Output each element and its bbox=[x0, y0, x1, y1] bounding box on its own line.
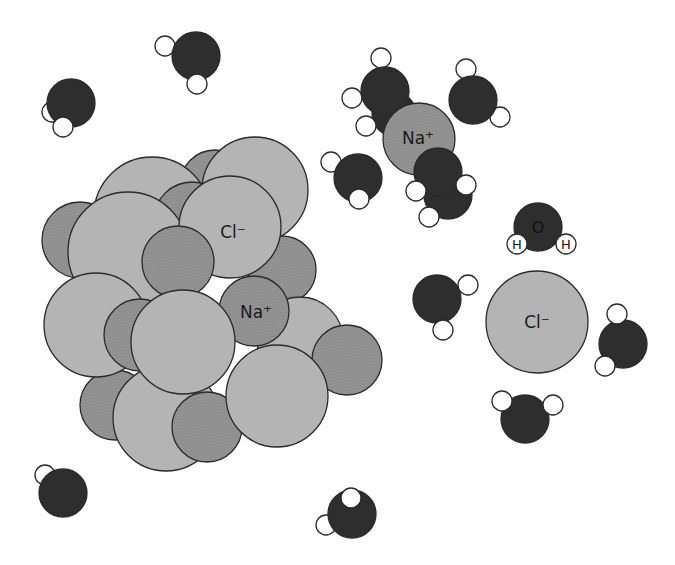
nacl-crystal bbox=[42, 137, 382, 471]
oxygen-atom bbox=[47, 79, 95, 127]
hydrogen-atom bbox=[456, 175, 476, 195]
crystal-sodium-label: Na⁺ bbox=[240, 302, 272, 322]
hydrogen-atom bbox=[342, 88, 362, 108]
hydrogen-atom bbox=[53, 117, 73, 137]
hydrogen-atom bbox=[406, 181, 426, 201]
water-hydrogen-left-label: H bbox=[512, 237, 522, 252]
solvated-chloride-label: Cl⁻ bbox=[524, 312, 550, 332]
hydrogen-atom bbox=[341, 488, 361, 508]
water-molecule bbox=[316, 488, 376, 538]
hydrogen-atom bbox=[543, 395, 563, 415]
oxygen-atom bbox=[413, 275, 461, 323]
chloride-ion bbox=[226, 345, 328, 447]
oxygen-atom bbox=[39, 469, 87, 517]
solvated-sodium-label: Na⁺ bbox=[402, 128, 434, 148]
water-oxygen-label: O bbox=[532, 218, 545, 237]
hydrogen-atom bbox=[419, 207, 439, 227]
chloride-ion bbox=[131, 290, 235, 394]
hydrogen-atom bbox=[356, 116, 376, 136]
oxygen-atom bbox=[449, 76, 497, 124]
hydrogen-atom bbox=[607, 304, 627, 324]
crystal-chloride-label: Cl⁻ bbox=[220, 222, 246, 242]
hydrogen-atom bbox=[492, 391, 512, 411]
sodium-ion bbox=[142, 226, 214, 298]
water-molecule bbox=[35, 465, 87, 517]
hydrogen-atom bbox=[371, 48, 391, 68]
water-molecule bbox=[155, 32, 220, 94]
water-molecule bbox=[42, 79, 95, 137]
oxygen-atom bbox=[172, 32, 220, 80]
hydrogen-atom bbox=[433, 320, 453, 340]
hydrogen-atom bbox=[595, 356, 615, 376]
hydrogen-atom bbox=[187, 74, 207, 94]
hydrogen-atom bbox=[458, 275, 478, 295]
hydrogen-atom bbox=[349, 189, 369, 209]
water-hydrogen-right-label: H bbox=[561, 237, 571, 252]
nacl-dissolution-diagram: Cl⁻ Na⁺ Na⁺ bbox=[0, 0, 675, 565]
